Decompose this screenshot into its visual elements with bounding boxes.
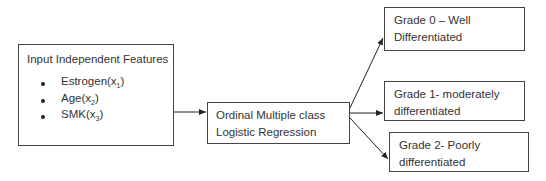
grade-1-box: Grade 1- moderately differentiated: [384, 81, 525, 121]
grade-2-line-1: Grade 2- Poorly: [399, 137, 480, 154]
grade-1-line-2: differentiated: [394, 103, 499, 120]
model-line-1: Ordinal Multiple class: [216, 107, 325, 124]
model-box: Ordinal Multiple class Logistic Regressi…: [207, 102, 350, 144]
grade-0-line-1: Grade 0 – Well: [394, 12, 471, 29]
grade-2-line-2: differentiated: [399, 154, 480, 171]
bullet-icon: [41, 99, 45, 103]
feature-item-smk: SMK(x3): [41, 109, 124, 126]
feature-list: Estrogen(x1) Age(x2) SMK(x3): [41, 76, 124, 126]
grade-1-line-1: Grade 1- moderately: [394, 86, 499, 103]
grade-2-box: Grade 2- Poorly differentiated: [389, 132, 529, 172]
input-features-box: Input Independent Features Estrogen(x1) …: [18, 44, 174, 146]
grade-0-box: Grade 0 – Well Differentiated: [384, 7, 525, 51]
arrow-model-to-grade2: [350, 118, 388, 159]
model-line-2: Logistic Regression: [216, 124, 325, 141]
bullet-icon: [41, 115, 45, 119]
bullet-icon: [41, 82, 45, 86]
arrow-model-to-grade0: [350, 38, 383, 108]
input-features-title: Input Independent Features: [27, 51, 168, 68]
grade-0-line-2: Differentiated: [394, 29, 471, 46]
